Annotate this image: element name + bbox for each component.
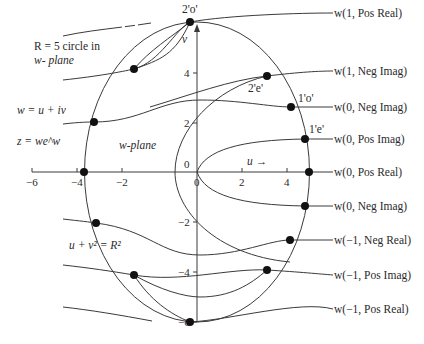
point-2e [263, 72, 271, 80]
point [186, 318, 194, 326]
point [286, 236, 294, 244]
branch-label: w(0, Neg Imag) [334, 200, 407, 213]
x-tick-label: −4 [71, 176, 83, 188]
point-1o [287, 103, 295, 111]
point [80, 168, 88, 176]
circle-equation: u + v² = R² [69, 239, 121, 251]
lambert-w-diagram: −6 −4 −2 0 2 4 4 2 0 −2 −4 −6 [0, 0, 424, 344]
x-tick-label: 2 [239, 176, 245, 188]
equation-w: w = u + iv [17, 104, 67, 116]
equation-z: z = we^w [16, 135, 61, 147]
label-1o: 1'o' [298, 92, 314, 104]
branch-labels: w(1, Pos Real) w(1, Neg Imag) w(0, Neg I… [334, 7, 411, 316]
branch-curves [63, 13, 333, 322]
v-axis-label: v [182, 33, 188, 45]
y-tick-label: 0 [194, 176, 200, 188]
y-tick-label: 4 [184, 67, 190, 79]
branch-label: w(1, Pos Real) [334, 7, 402, 20]
point [301, 202, 309, 210]
point [130, 271, 138, 279]
label-2e: 2'e' [248, 82, 263, 94]
point [130, 65, 138, 73]
branch-label: w(−1, Pos Real) [334, 303, 409, 316]
branch-label: w(1, Neg Imag) [334, 65, 407, 78]
y-tick-label: −2 [178, 216, 190, 228]
circle-note-2: w- plane [34, 54, 74, 67]
branch-label: w(0, Neg Imag) [334, 101, 407, 114]
branch-label: w(0, Pos Imag) [334, 133, 405, 146]
point [90, 118, 98, 126]
label-1e: 1'e' [309, 123, 324, 135]
y-tick-label: 2 [184, 117, 190, 129]
point [263, 266, 271, 274]
branch-label: w(0, Pos Real) [334, 166, 402, 179]
v-axis-arrow-icon [194, 24, 200, 32]
x-tick-label: −6 [26, 176, 38, 188]
point-1e [301, 135, 309, 143]
x-tick-label: −2 [116, 176, 128, 188]
branch-label: w(−1, Neg Real) [334, 234, 411, 247]
x-tick-label: 0 [184, 158, 190, 170]
label-2o: 2'o' [182, 3, 198, 15]
x-tick-label: 4 [284, 176, 290, 188]
circle-note: R = 5 circle in [34, 40, 100, 52]
point-2o [186, 18, 194, 26]
point-pos-real [305, 168, 313, 176]
point [92, 219, 100, 227]
w-plane-label: w-plane [119, 139, 156, 152]
branch-label: w(−1, Pos Imag) [334, 269, 411, 282]
u-axis-label: u → [247, 155, 267, 167]
